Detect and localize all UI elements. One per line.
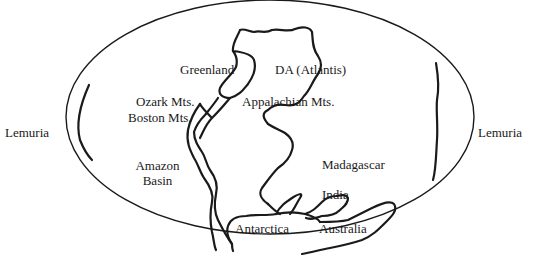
label-india: India (322, 187, 349, 202)
label-amazon-line2: Basin (143, 173, 173, 188)
lemuria-left-inner-coast (78, 85, 92, 160)
label-da-atlantis: DA (Atlantis) (275, 62, 346, 77)
label-antarctica: Antarctica (235, 221, 289, 236)
paleogeographic-map: Lemuria Lemuria Greenland DA (Atlantis) … (0, 0, 539, 266)
label-appalachian-mts: Appalachian Mts. (242, 94, 334, 109)
amazon-basin-coast (187, 104, 216, 250)
label-greenland: Greenland (180, 62, 234, 77)
label-ozark-mts: Ozark Mts. (136, 94, 195, 109)
label-amazon-line1: Amazon (135, 158, 179, 173)
label-lemuria-right: Lemuria (478, 125, 522, 140)
label-australia: Australia (319, 221, 367, 236)
label-amazon-basin: Amazon Basin (130, 158, 185, 188)
madagascar-coast (268, 194, 301, 214)
label-madagascar: Madagascar (322, 157, 385, 172)
lemuria-right-coast (433, 63, 438, 180)
label-lemuria-left: Lemuria (5, 125, 49, 140)
label-boston-mts: Boston Mts. (128, 110, 192, 125)
